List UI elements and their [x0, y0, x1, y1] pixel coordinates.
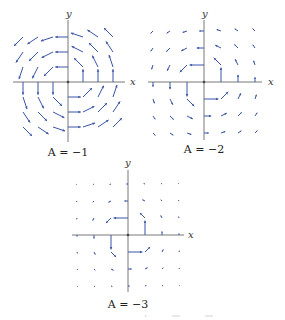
field-vector	[178, 200, 179, 201]
field-vector	[55, 36, 68, 39]
arrow-head-icon	[55, 51, 58, 54]
field-vector	[94, 252, 95, 255]
field-vector	[22, 82, 25, 95]
field-vector	[124, 200, 128, 201]
field-vector	[167, 31, 170, 33]
panel-caption: A = −3	[107, 298, 148, 311]
field-vector	[27, 37, 38, 44]
panel-a-neg1: y x A = −1	[13, 8, 136, 159]
x-axis-label: x	[268, 76, 274, 87]
field-vector	[93, 235, 94, 239]
field-vector	[187, 116, 193, 119]
field-vector	[112, 69, 115, 82]
field-vector	[53, 127, 65, 131]
field-vector	[170, 116, 174, 120]
field-vector	[77, 269, 78, 270]
field-vector	[111, 252, 116, 257]
field-vector	[217, 29, 221, 31]
field-vector	[170, 133, 173, 135]
arrow-head-icon	[55, 36, 58, 39]
field-vector	[38, 112, 47, 121]
field-vector	[55, 66, 68, 69]
field-vector	[94, 269, 95, 270]
field-vector	[68, 96, 81, 99]
field-vector	[108, 201, 111, 202]
arrow-head-icon	[41, 39, 44, 41]
field-vector	[92, 56, 98, 67]
field-vector	[153, 99, 155, 103]
field-vector	[53, 112, 64, 118]
field-vector	[179, 268, 180, 269]
field-vector	[77, 286, 78, 287]
field-vector	[71, 33, 83, 37]
arrow-head-icon	[144, 221, 147, 224]
field-vector	[161, 200, 162, 201]
field-vector	[151, 65, 153, 69]
field-vector	[204, 98, 218, 101]
arrow-head-icon	[152, 85, 154, 87]
field-vector	[29, 52, 38, 61]
field-vector	[179, 251, 180, 252]
field-vector	[106, 218, 111, 223]
field-vector	[140, 213, 145, 218]
arrow-head-icon	[140, 251, 143, 254]
arrow-head-icon	[110, 247, 113, 250]
field-vector	[98, 103, 107, 112]
arrow-head-icon	[78, 111, 81, 114]
field-vector	[93, 184, 94, 185]
field-vector	[220, 68, 223, 82]
field-vector	[238, 131, 241, 133]
field-vector	[253, 45, 255, 48]
arrow-head-icon	[209, 115, 211, 117]
field-vector	[238, 93, 241, 99]
field-vector	[98, 120, 109, 127]
field-vector	[214, 58, 221, 65]
field-vector	[83, 88, 92, 97]
field-vector	[106, 41, 113, 52]
field-vector	[93, 201, 94, 202]
field-vector	[167, 65, 170, 71]
field-vector	[253, 61, 255, 65]
field-vector	[77, 252, 78, 253]
field-vector	[197, 47, 204, 49]
field-vector	[126, 184, 128, 185]
field-vector	[186, 82, 189, 96]
field-vector	[23, 127, 32, 136]
field-vector	[98, 86, 104, 97]
field-vector	[144, 221, 147, 235]
field-vector	[113, 101, 120, 112]
field-vector	[44, 67, 53, 76]
x-axis-label: x	[130, 76, 136, 87]
field-vector	[161, 231, 162, 235]
field-vector	[254, 77, 256, 82]
field-vector	[153, 116, 155, 119]
field-vector	[204, 115, 211, 117]
field-vector	[14, 37, 23, 46]
arrow-head-icon	[220, 68, 223, 71]
field-vector	[111, 269, 114, 270]
field-vector	[94, 286, 95, 287]
arrow-head-icon	[78, 126, 81, 129]
field-vector	[221, 131, 225, 133]
field-vector	[151, 31, 153, 33]
arrow-head-icon	[71, 33, 74, 35]
field-vector	[145, 268, 148, 269]
field-vector	[110, 184, 111, 185]
arrow-head-icon	[19, 76, 21, 79]
arrow-head-icon	[237, 75, 239, 77]
field-vector	[183, 31, 187, 33]
field-vector	[161, 183, 162, 184]
panel-caption: A = −1	[47, 146, 88, 159]
field-vector	[255, 95, 257, 99]
field-vector	[42, 52, 53, 58]
arrow-head-icon	[62, 129, 65, 131]
field-vector	[187, 133, 191, 135]
arrow-head-icon	[115, 85, 117, 88]
field-vector	[89, 43, 98, 52]
field-vector	[221, 113, 227, 116]
field-vector	[151, 48, 153, 51]
field-vector	[72, 46, 83, 52]
field-vector	[113, 85, 117, 97]
field-vector	[76, 184, 77, 185]
field-vector	[76, 201, 77, 202]
